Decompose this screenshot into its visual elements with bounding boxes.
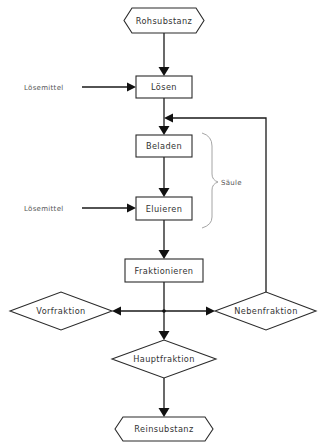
node-label: Beladen	[146, 141, 182, 151]
node-reinsubstanz: Reinsubstanz	[115, 417, 213, 441]
node-fraktionieren: Fraktionieren	[125, 259, 203, 282]
saeule-brace	[202, 133, 218, 228]
node-label: Rohsubstanz	[136, 16, 193, 26]
arrow-head-icon	[159, 250, 170, 259]
node-beladen: Beladen	[136, 135, 192, 157]
solvent-input-label: Lösemittel	[24, 84, 64, 92]
arrow-head-icon	[159, 408, 170, 417]
arrow-head-icon	[159, 331, 170, 340]
solvent-input-label: Lösemittel	[24, 205, 64, 213]
node-nebenfraktion: Nebenfraktion	[215, 292, 316, 330]
arrow-head-icon	[127, 204, 136, 213]
arrow-head-icon	[159, 188, 170, 197]
junction-dot	[162, 309, 166, 313]
arrow-head-icon	[159, 67, 170, 76]
node-label: Reinsubstanz	[134, 424, 193, 434]
arrow-head-icon	[127, 83, 136, 92]
node-label: Vorfraktion	[36, 306, 85, 316]
node-label: Lösen	[151, 82, 177, 92]
node-label: Eluieren	[146, 204, 183, 214]
node-rohsubstanz: Rohsubstanz	[124, 8, 204, 33]
node-eluieren: Eluieren	[136, 197, 192, 220]
node-label: Fraktionieren	[135, 266, 194, 276]
arrow-head-icon	[164, 114, 173, 123]
node-loesen: Lösen	[136, 76, 192, 98]
flowchart: Rohsubstanz Lösen Beladen Eluieren Frakt…	[0, 0, 322, 448]
arrow-head-icon	[159, 126, 170, 135]
node-label: Hauptfraktion	[133, 354, 195, 364]
saeule-label: Säule	[221, 179, 242, 187]
node-label: Nebenfraktion	[234, 306, 297, 316]
node-hauptfraktion: Hauptfraktion	[112, 340, 216, 378]
node-vorfraktion: Vorfraktion	[10, 292, 112, 330]
